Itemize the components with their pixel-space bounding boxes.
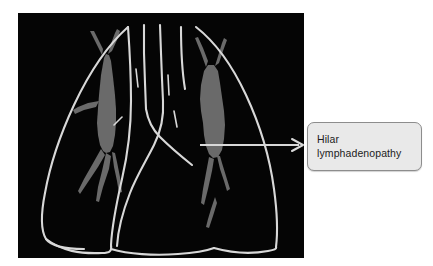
hilar-lymphadenopathy-callout: Hilar lymphadenopathy [307,122,422,171]
callout-line-2: lymphadenopathy [317,147,421,161]
chest-xray-panel [18,13,304,258]
figure-root: Hilar lymphadenopathy [0,0,433,266]
chest-xray-illustration [18,13,304,258]
callout-line-1: Hilar [317,133,421,147]
left-vessel-marker-a [168,75,169,95]
